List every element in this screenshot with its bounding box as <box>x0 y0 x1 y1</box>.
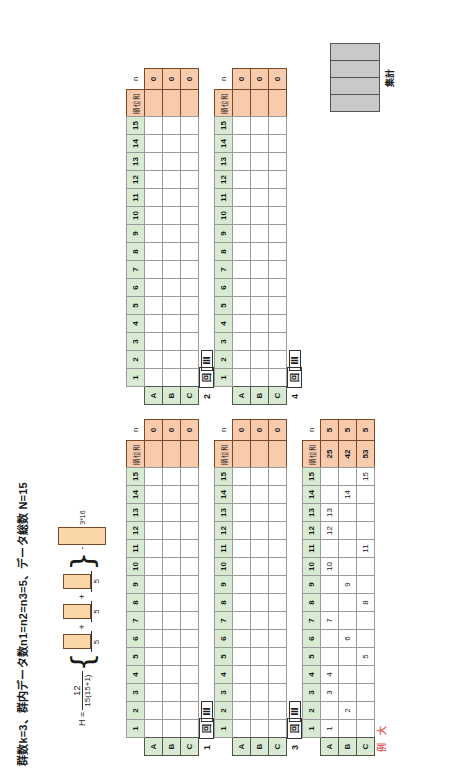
group-size-cell[interactable]: 0 <box>163 69 181 90</box>
rank-cell[interactable] <box>251 207 269 225</box>
rank-cell[interactable] <box>145 522 163 540</box>
rank-sum-cell[interactable] <box>233 90 251 117</box>
rank-cell[interactable] <box>163 576 181 594</box>
rank-cell[interactable] <box>339 720 357 738</box>
rank-cell[interactable] <box>181 171 199 189</box>
rank-cell[interactable] <box>251 135 269 153</box>
rank-cell[interactable] <box>321 540 339 558</box>
rank-cell[interactable] <box>251 576 269 594</box>
rank-cell[interactable] <box>163 702 181 720</box>
rank-cell[interactable] <box>145 207 163 225</box>
rank-cell[interactable] <box>145 540 163 558</box>
rank-cell[interactable] <box>163 720 181 738</box>
rank-cell[interactable] <box>181 648 199 666</box>
rank-cell[interactable] <box>145 666 163 684</box>
rank-cell[interactable] <box>163 486 181 504</box>
group-size-cell[interactable]: 5 <box>321 420 339 441</box>
rank-cell[interactable] <box>339 612 357 630</box>
blank-box[interactable] <box>63 604 91 619</box>
rank-cell[interactable] <box>233 504 251 522</box>
rank-cell[interactable] <box>339 540 357 558</box>
rank-cell[interactable] <box>251 315 269 333</box>
rank-cell[interactable] <box>269 630 287 648</box>
rank-cell[interactable] <box>269 558 287 576</box>
rank-cell[interactable] <box>163 666 181 684</box>
rank-cell[interactable] <box>269 243 287 261</box>
blank-box-result[interactable] <box>58 527 106 545</box>
rank-cell[interactable] <box>163 171 181 189</box>
rank-cell[interactable] <box>181 333 199 351</box>
rank-sum-cell[interactable] <box>251 441 269 468</box>
rank-cell[interactable] <box>321 630 339 648</box>
rank-cell[interactable] <box>233 594 251 612</box>
rank-cell[interactable] <box>251 369 269 387</box>
rank-cell[interactable] <box>181 189 199 207</box>
group-size-cell[interactable]: 0 <box>145 420 163 441</box>
rank-cell[interactable] <box>181 351 199 369</box>
rank-cell[interactable] <box>339 594 357 612</box>
rank-cell[interactable] <box>251 558 269 576</box>
rank-cell[interactable] <box>251 261 269 279</box>
rank-cell[interactable] <box>181 297 199 315</box>
rank-cell[interactable] <box>233 666 251 684</box>
rank-cell[interactable] <box>181 684 199 702</box>
rank-cell[interactable] <box>269 540 287 558</box>
rank-cell[interactable] <box>181 630 199 648</box>
rank-cell[interactable] <box>181 540 199 558</box>
rank-cell[interactable] <box>321 594 339 612</box>
rank-cell[interactable] <box>233 648 251 666</box>
rank-cell[interactable] <box>251 594 269 612</box>
group-size-cell[interactable]: 0 <box>181 69 199 90</box>
rank-cell[interactable] <box>181 243 199 261</box>
rank-cell[interactable] <box>233 522 251 540</box>
blank-box[interactable] <box>63 634 91 649</box>
rank-cell[interactable] <box>357 522 375 540</box>
rank-cell[interactable]: 8 <box>357 594 375 612</box>
rank-cell[interactable] <box>233 630 251 648</box>
rank-cell[interactable] <box>269 207 287 225</box>
rank-cell[interactable]: 15 <box>357 468 375 486</box>
rank-cell[interactable] <box>233 468 251 486</box>
rank-cell[interactable] <box>233 540 251 558</box>
rank-cell[interactable] <box>321 486 339 504</box>
group-size-cell[interactable]: 0 <box>251 420 269 441</box>
rank-cell[interactable] <box>251 153 269 171</box>
rank-cell[interactable] <box>269 315 287 333</box>
rank-cell[interactable] <box>233 153 251 171</box>
rank-cell[interactable]: 5 <box>357 648 375 666</box>
rank-cell[interactable] <box>251 297 269 315</box>
rank-sum-cell[interactable]: 42 <box>339 441 357 468</box>
rank-cell[interactable] <box>181 261 199 279</box>
rank-cell[interactable] <box>269 333 287 351</box>
rank-cell[interactable] <box>233 225 251 243</box>
rank-cell[interactable] <box>251 333 269 351</box>
rank-cell[interactable] <box>357 684 375 702</box>
rank-cell[interactable]: 7 <box>321 612 339 630</box>
rank-cell[interactable] <box>233 558 251 576</box>
rank-cell[interactable] <box>145 612 163 630</box>
rank-cell[interactable] <box>269 648 287 666</box>
rank-cell[interactable] <box>321 648 339 666</box>
rank-cell[interactable] <box>233 315 251 333</box>
rank-cell[interactable]: 10 <box>321 558 339 576</box>
rank-cell[interactable] <box>163 315 181 333</box>
rank-cell[interactable] <box>163 333 181 351</box>
rank-cell[interactable] <box>357 612 375 630</box>
rank-cell[interactable] <box>145 720 163 738</box>
rank-cell[interactable] <box>357 576 375 594</box>
rank-cell[interactable] <box>233 486 251 504</box>
rank-cell[interactable] <box>251 666 269 684</box>
rank-cell[interactable] <box>163 243 181 261</box>
rank-cell[interactable] <box>269 504 287 522</box>
rank-sum-cell[interactable]: 53 <box>357 441 375 468</box>
rank-cell[interactable] <box>251 630 269 648</box>
rank-cell[interactable] <box>233 171 251 189</box>
rank-sum-cell[interactable] <box>181 90 199 117</box>
rank-cell[interactable] <box>181 369 199 387</box>
rank-cell[interactable] <box>269 720 287 738</box>
group-size-cell[interactable]: 0 <box>269 420 287 441</box>
rank-cell[interactable] <box>145 576 163 594</box>
rank-cell[interactable] <box>357 486 375 504</box>
rank-sum-cell[interactable] <box>163 90 181 117</box>
rank-cell[interactable]: 11 <box>357 540 375 558</box>
